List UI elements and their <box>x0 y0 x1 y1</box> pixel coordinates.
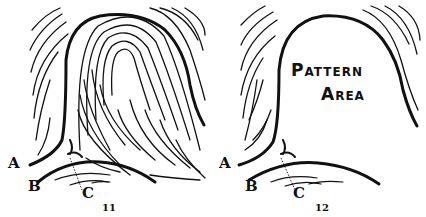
pattern-area-label-line1: Pattern <box>291 62 363 79</box>
label-a: A <box>8 156 20 171</box>
figure-number: 11 <box>102 203 116 213</box>
label-c: C <box>293 186 305 201</box>
label-b: B <box>28 179 41 194</box>
figure-11: A B C 11 <box>0 0 213 217</box>
figure-number: 12 <box>315 203 329 213</box>
label-c: C <box>82 186 94 201</box>
label-a: A <box>219 156 231 171</box>
label-b: B <box>245 179 258 194</box>
figure-12: Pattern Area A B C 12 <box>213 0 426 217</box>
pattern-area-label-line2: Area <box>321 86 365 103</box>
